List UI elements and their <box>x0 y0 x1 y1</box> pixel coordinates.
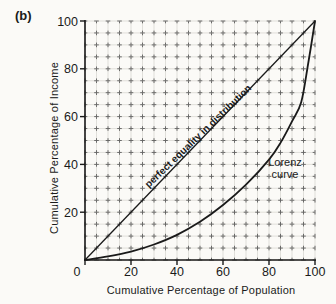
figure-label: (b) <box>15 8 32 23</box>
y-tick-label: 40 <box>64 158 78 172</box>
x-tick-label: 40 <box>170 265 184 279</box>
x-tick-label: 20 <box>124 265 138 279</box>
y-tick-label: 100 <box>57 15 78 29</box>
x-tick-label: 0 <box>74 265 81 279</box>
y-axis-title: Cumulative Percentage of Income <box>48 62 60 234</box>
lorenz-curve-label-line2: curve <box>268 168 302 180</box>
lorenz-curve-figure: 20406080100020406080100 (b) Cumulative P… <box>0 0 336 304</box>
y-tick-label: 60 <box>64 110 78 124</box>
y-tick-label: 20 <box>64 206 78 220</box>
lorenz-curve-label: Lorenz curve <box>268 156 302 180</box>
x-tick-label: 60 <box>216 265 230 279</box>
x-tick-label: 80 <box>262 265 276 279</box>
x-axis-title: Cumulative Percentage of Population <box>107 284 296 296</box>
x-tick-label: 100 <box>305 265 326 279</box>
lorenz-curve-label-line1: Lorenz <box>268 156 302 168</box>
y-tick-label: 80 <box>64 62 78 76</box>
